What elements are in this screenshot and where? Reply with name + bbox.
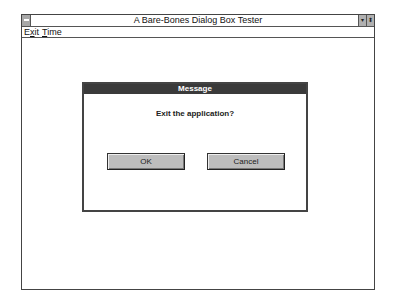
maximize-icon[interactable]: ⬍: [366, 15, 374, 26]
cancel-button[interactable]: Cancel: [207, 153, 285, 170]
message-dialog: Message Exit the application? OK Cancel: [82, 82, 308, 212]
menu-bar: Exit Time: [22, 27, 374, 38]
ok-button[interactable]: OK: [107, 153, 185, 170]
title-bar[interactable]: A Bare-Bones Dialog Box Tester ▾ ⬍: [22, 15, 374, 27]
dialog-title[interactable]: Message: [84, 84, 306, 94]
dialog-message: Exit the application?: [84, 109, 306, 118]
menu-time[interactable]: Time: [42, 27, 62, 37]
menu-exit[interactable]: Exit: [24, 27, 39, 37]
window-title: A Bare-Bones Dialog Box Tester: [22, 15, 374, 26]
minimize-icon[interactable]: ▾: [358, 15, 366, 26]
